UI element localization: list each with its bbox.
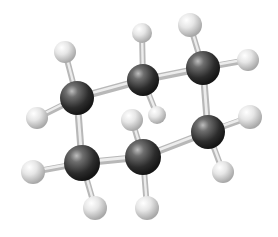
molecule-diagram bbox=[0, 0, 278, 237]
hydrogen-atom bbox=[121, 109, 143, 131]
hydrogen-atom bbox=[238, 105, 262, 129]
hydrogen-atom bbox=[26, 107, 48, 129]
hydrogen-atom bbox=[54, 41, 76, 63]
carbon-atom bbox=[191, 115, 225, 149]
hydrogen-atom bbox=[237, 49, 259, 71]
hydrogen-atom bbox=[135, 196, 159, 220]
hydrogen-atom bbox=[148, 106, 166, 124]
carbon-atom bbox=[127, 64, 159, 96]
cyclohexane-model bbox=[0, 0, 278, 237]
carbon-atom bbox=[64, 145, 100, 181]
carbon-atom bbox=[125, 139, 161, 175]
carbon-atom bbox=[186, 51, 220, 85]
hydrogen-atom bbox=[132, 23, 152, 43]
hydrogen-atom bbox=[212, 161, 234, 183]
carbon-atom bbox=[60, 81, 94, 115]
hydrogen-atom bbox=[83, 196, 107, 220]
hydrogen-atom bbox=[178, 13, 202, 37]
hydrogen-atom bbox=[21, 160, 45, 184]
